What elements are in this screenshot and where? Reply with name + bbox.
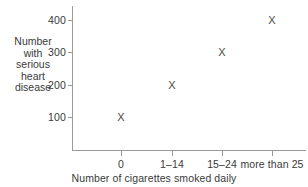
y-axis-tick [68, 52, 73, 53]
data-point-marker: X [218, 47, 225, 58]
x-axis-line [72, 150, 306, 151]
y-axis-tick-label: 100 [30, 111, 66, 123]
x-axis-tick [121, 151, 122, 156]
x-axis-tick-label: 1–14 [160, 158, 184, 170]
y-axis-tick-label: 400 [30, 14, 66, 26]
y-axis-tick [68, 20, 73, 21]
x-axis-tick [222, 151, 223, 156]
data-point-marker: X [268, 15, 275, 26]
x-axis-tick [272, 151, 273, 156]
x-axis-title: Number of cigarettes smoked daily [0, 172, 308, 184]
y-axis-tick [68, 117, 73, 118]
chart-figure: Number with serious heart disease 400 30… [0, 0, 308, 187]
y-axis-line [72, 6, 73, 151]
x-axis-tick [172, 151, 173, 156]
y-axis-tick-label: 200 [30, 79, 66, 91]
x-axis-tick-label: 15–24 [207, 158, 237, 170]
data-point-marker: X [117, 112, 124, 123]
data-point-marker: X [168, 80, 175, 91]
x-axis-tick-label: 0 [118, 158, 124, 170]
y-axis-tick-label: 300 [30, 46, 66, 58]
x-axis-tick-label: more than 25 [240, 158, 303, 170]
y-axis-tick [68, 85, 73, 86]
